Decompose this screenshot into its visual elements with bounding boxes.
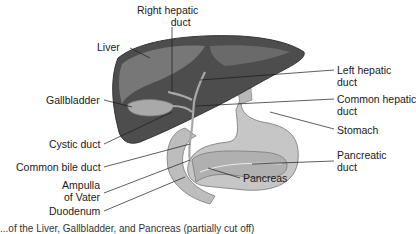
- label-pancreas: Pancreas: [243, 172, 287, 184]
- label-ampulla-of-vater: Ampulla of Vater: [60, 179, 100, 203]
- label-right-hepatic-duct: Right hepatic duct: [137, 4, 198, 28]
- label-line: Pancreatic: [337, 149, 387, 161]
- label-cystic-duct: Cystic duct: [49, 138, 100, 150]
- label-line: duct: [137, 16, 198, 28]
- label-pancreatic-duct: Pancreatic duct: [337, 149, 387, 173]
- gallbladder-shape: [128, 100, 173, 117]
- label-duodenum: Duodenum: [49, 205, 100, 217]
- label-line: duct: [337, 105, 416, 117]
- label-stomach: Stomach: [337, 124, 378, 136]
- label-line: of Vater: [60, 191, 100, 203]
- label-liver: Liver: [97, 41, 120, 53]
- label-line: duct: [337, 76, 391, 88]
- label-line: duct: [337, 161, 387, 173]
- label-gallbladder: Gallbladder: [46, 94, 100, 106]
- label-line: Right hepatic: [137, 4, 198, 16]
- figure-caption: ...of the Liver, Gallbladder, and Pancre…: [0, 223, 254, 234]
- label-left-hepatic-duct: Left hepatic duct: [337, 64, 391, 88]
- label-line: Common hepatic: [337, 93, 416, 105]
- label-common-bile-duct: Common bile duct: [16, 161, 101, 173]
- label-common-hepatic-duct: Common hepatic duct: [337, 93, 416, 117]
- label-line: Ampulla: [60, 179, 100, 191]
- label-line: Left hepatic: [337, 64, 391, 76]
